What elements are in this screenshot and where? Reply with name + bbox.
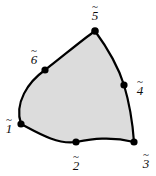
- node-dot-3: [130, 138, 137, 145]
- node-number-5: 5: [92, 9, 99, 22]
- node-label-4: ~4: [137, 79, 144, 97]
- node-label-1: ~1: [6, 117, 13, 135]
- node-number-2: 2: [73, 159, 80, 172]
- node-dot-6: [41, 66, 48, 73]
- node-number-3: 3: [143, 157, 150, 170]
- node-number-6: 6: [31, 53, 38, 66]
- node-dot-5: [91, 27, 99, 35]
- node-number-4: 4: [137, 84, 144, 97]
- node-label-2: ~2: [73, 154, 80, 172]
- node-label-5: ~5: [92, 4, 99, 22]
- node-dot-1: [17, 120, 24, 127]
- node-dot-2: [72, 138, 79, 145]
- node-label-3: ~3: [143, 152, 150, 170]
- node-label-6: ~6: [31, 48, 38, 66]
- node-dot-4: [120, 81, 127, 88]
- curved-triangular-element-figure: ~1~2~3~4~5~6: [0, 0, 156, 176]
- node-number-1: 1: [6, 122, 13, 135]
